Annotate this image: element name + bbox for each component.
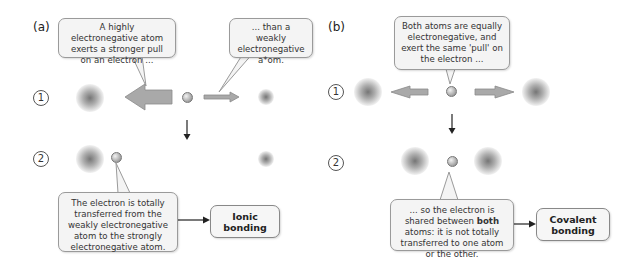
- step-1-marker: 1: [328, 84, 344, 100]
- bubble-strong-atom: A highly electronegative atom exerts a s…: [58, 18, 176, 58]
- ionic-bonding-box: Ionic bonding: [210, 205, 280, 238]
- panel-a-label: (a): [33, 20, 50, 34]
- atom-right: [522, 78, 550, 106]
- electron-shared: [447, 156, 458, 167]
- bubble-transfer: The electron is totally transferred from…: [58, 192, 178, 252]
- right-arrow-icon: [203, 217, 210, 224]
- right-arrow-icon: [529, 221, 536, 228]
- atom-right-bonded: [474, 147, 502, 175]
- strong-pull-arrow-icon: [125, 84, 172, 110]
- weak-pull-arrow-icon: [204, 92, 239, 102]
- step-2-marker: 2: [328, 155, 344, 171]
- electron: [182, 92, 193, 103]
- down-arrow-icon: [449, 128, 456, 134]
- atom-left: [354, 78, 382, 106]
- bubble-weak-atom: ... than a weakly electronegative a*om.: [229, 18, 313, 58]
- atom-left-bonded: [401, 147, 429, 175]
- step-1-marker: 1: [33, 90, 49, 106]
- electron: [446, 86, 457, 97]
- bold-both: both: [477, 216, 499, 226]
- covalent-bonding-box: Covalent bonding: [536, 208, 610, 241]
- strong-atom-ion: [76, 145, 104, 173]
- bubble-tail-weak: [219, 52, 254, 92]
- bubble-equal-pull: Both atoms are equally electronegative, …: [394, 16, 510, 70]
- weak-atom: [258, 89, 274, 105]
- left-pull-arrow-icon: [391, 86, 428, 98]
- panel-b-label: (b): [328, 20, 345, 34]
- electron-transferred: [111, 152, 122, 163]
- down-arrow-icon: [184, 134, 191, 140]
- bubble-shared: ... so the electron is shared between bo…: [390, 199, 514, 251]
- right-pull-arrow-icon: [475, 86, 514, 98]
- weak-atom-ion: [258, 151, 274, 167]
- strong-atom: [76, 84, 104, 112]
- step-2-marker: 2: [33, 151, 49, 167]
